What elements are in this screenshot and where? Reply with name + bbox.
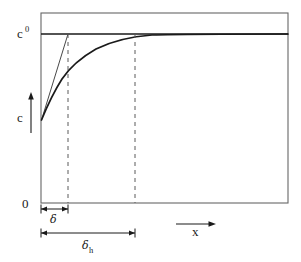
c-axis-arrow (28, 92, 34, 133)
c0-label-superscript: 0 (25, 24, 29, 34)
x-axis-label: x (192, 224, 199, 239)
origin-label: 0 (22, 196, 29, 211)
delta-h-label-subscript: h (89, 245, 94, 255)
delta-h-dimension-line (41, 229, 135, 238)
plot-frame (41, 13, 288, 203)
concentration-boundary-layer-figure: c 0 c 0 x δ δ h (0, 0, 301, 262)
delta-h-label: δ (82, 239, 89, 252)
delta-label: δ (50, 213, 57, 226)
concentration-profile-curve (42, 34, 289, 120)
c0-label: c (17, 26, 23, 41)
c-axis-label: c (17, 110, 23, 125)
